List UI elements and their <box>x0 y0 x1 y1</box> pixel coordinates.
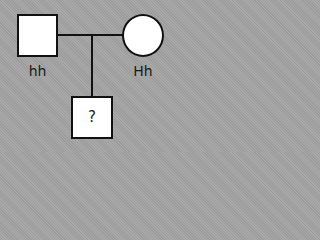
mating-line <box>57 34 123 36</box>
father-square <box>17 14 58 57</box>
mother-genotype-label: Hh <box>122 64 164 78</box>
father-genotype-label: hh <box>17 64 58 78</box>
child-unknown-genotype: ? <box>71 110 113 125</box>
descent-line <box>91 34 93 97</box>
mother-circle <box>122 14 164 57</box>
